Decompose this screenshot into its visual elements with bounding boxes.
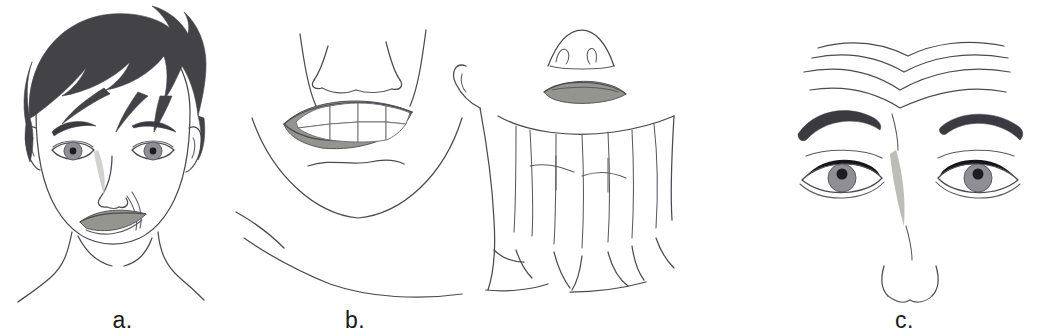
panel-c-forehead-wrinkles: c.: [780, 0, 1041, 336]
figure-container: a.: [0, 0, 1041, 336]
panel-a-label: a.: [0, 307, 245, 334]
panel-a-facial-droop: a.: [0, 0, 260, 336]
panel-b-illustration: [230, 0, 680, 336]
panel-b-label: b.: [230, 307, 480, 334]
panel-b-platysma-grimace: b.: [230, 0, 680, 336]
panel-c-label: c.: [780, 307, 1029, 334]
panel-c-illustration: [780, 0, 1041, 336]
panel-a-illustration: [0, 0, 260, 336]
